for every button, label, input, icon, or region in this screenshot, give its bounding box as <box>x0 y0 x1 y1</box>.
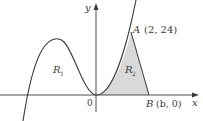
point-b-coords: (b, 0) <box>156 98 182 109</box>
point-b-name: B <box>145 98 153 109</box>
y-axis-arrow-icon <box>94 3 99 10</box>
region-r2-subscript: 2 <box>132 70 136 77</box>
y-axis-label: y <box>84 2 91 13</box>
origin-label: 0 <box>87 98 93 108</box>
curve-diagram: y x 0 R 1 R 2 A (2, 24) B (b, 0) <box>0 0 203 121</box>
cubic-curve <box>23 0 136 121</box>
point-a-name: A <box>132 24 140 35</box>
x-axis-label: x <box>192 97 198 108</box>
region-r1-subscript: 1 <box>60 70 64 77</box>
point-a-coords: (2, 24) <box>144 24 177 35</box>
shaded-region-r2 <box>96 32 149 95</box>
